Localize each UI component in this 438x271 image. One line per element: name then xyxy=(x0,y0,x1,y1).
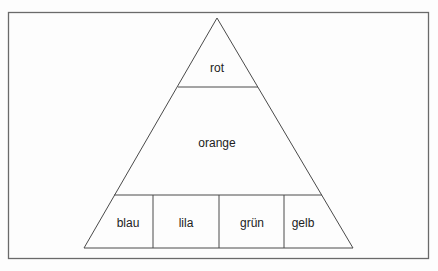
level-label-rot: rot xyxy=(210,61,224,75)
cell-label-gelb: gelb xyxy=(292,216,315,230)
level-label-orange: orange xyxy=(198,136,235,150)
cell-label-blau: blau xyxy=(117,216,140,230)
diagram-canvas: rot orange blau lila grün gelb xyxy=(0,0,438,271)
cell-label-gruen: grün xyxy=(240,216,264,230)
cell-label-lila: lila xyxy=(179,216,194,230)
